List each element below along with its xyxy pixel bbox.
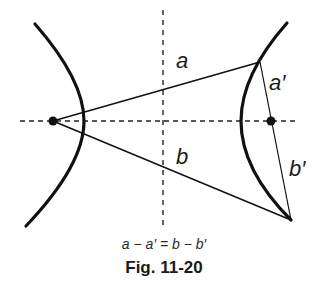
label-a-prime: a′: [269, 72, 285, 94]
label-b: b: [176, 146, 188, 168]
equation-text: a − a′ = b − b′: [0, 236, 328, 252]
label-a: a: [176, 50, 188, 72]
label-b-prime: b′: [289, 158, 305, 180]
left-focus-dot: [49, 117, 58, 126]
hyperbola-diagram: a a′ b b′ a − a′ = b − b′ Fig. 11-20: [0, 0, 328, 292]
line-a: [53, 62, 260, 121]
figure-caption: Fig. 11-20: [0, 258, 328, 278]
right-focus-dot: [267, 117, 276, 126]
